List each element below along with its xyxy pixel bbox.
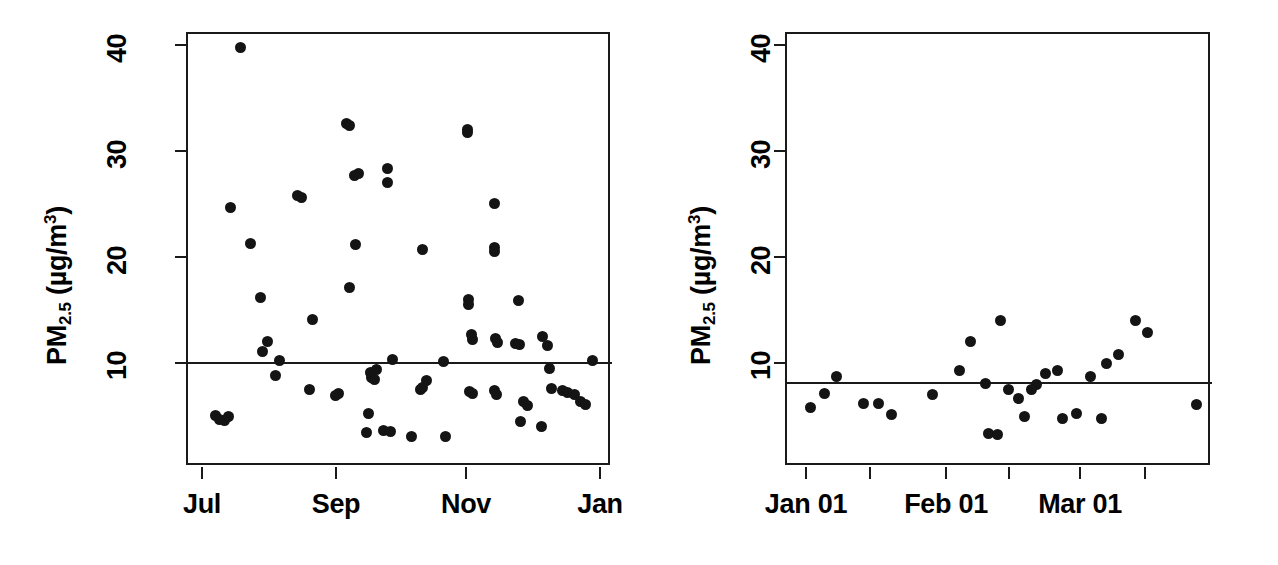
data-point xyxy=(1019,411,1030,422)
data-point xyxy=(344,282,355,293)
data-point xyxy=(382,163,393,174)
data-point xyxy=(491,389,502,400)
data-point xyxy=(858,398,869,409)
left-ytick-mark-40 xyxy=(175,44,186,46)
data-point xyxy=(980,378,991,389)
data-point xyxy=(886,409,897,420)
data-point xyxy=(333,388,344,399)
right-xtick-mark-6 xyxy=(1144,467,1146,479)
right-xtick-label-mar01: Mar 01 xyxy=(1010,489,1150,520)
data-point xyxy=(927,389,938,400)
data-point xyxy=(225,202,236,213)
data-point xyxy=(350,239,361,250)
data-point xyxy=(965,336,976,347)
data-point xyxy=(415,384,426,395)
data-point xyxy=(489,198,500,209)
data-point xyxy=(467,388,478,399)
right-ytick-label-30: 30 xyxy=(746,132,777,178)
right-xtick-mark-1 xyxy=(805,467,807,479)
data-point xyxy=(371,364,382,375)
data-point xyxy=(307,314,318,325)
data-point xyxy=(1142,327,1153,338)
left-xtick-label-jul: Jul xyxy=(152,489,252,520)
data-point xyxy=(587,355,598,366)
data-point xyxy=(1071,408,1082,419)
data-point xyxy=(245,238,256,249)
data-point xyxy=(467,334,478,345)
left-y-axis-title: PM2.5 (µg/m3) xyxy=(42,156,73,416)
data-point xyxy=(514,339,525,350)
data-point xyxy=(270,370,281,381)
data-point xyxy=(1113,349,1124,360)
data-point xyxy=(544,363,555,374)
data-point xyxy=(536,421,547,432)
data-point xyxy=(831,371,842,382)
left-xtick-mark-sep xyxy=(335,467,337,479)
left-ytick-label-30: 30 xyxy=(102,132,133,178)
data-point xyxy=(1085,371,1096,382)
data-point xyxy=(515,416,526,427)
left-ytick-label-40: 40 xyxy=(102,26,133,72)
data-point xyxy=(873,398,884,409)
data-point xyxy=(1040,368,1051,379)
right-ytick-label-40: 40 xyxy=(746,26,777,72)
data-point xyxy=(304,384,315,395)
right-xtick-mark-5 xyxy=(1079,467,1081,479)
data-point xyxy=(296,192,307,203)
data-point xyxy=(361,427,372,438)
data-point xyxy=(417,244,428,255)
left-xtick-label-sep: Sep xyxy=(286,489,386,520)
data-point xyxy=(223,411,234,422)
left-plot-frame xyxy=(186,32,610,465)
right-xtick-mark-2 xyxy=(869,467,871,479)
left-ytick-mark-30 xyxy=(175,150,186,152)
data-point xyxy=(580,399,591,410)
data-point xyxy=(1013,393,1024,404)
right-xtick-label-feb01: Feb 01 xyxy=(876,489,1016,520)
right-ytick-mark-10 xyxy=(774,362,785,364)
data-point xyxy=(369,374,380,385)
left-scatter-panel: PM2.5 (µg/m3) 40 30 20 10 Jul Sep Nov Ja… xyxy=(0,0,639,565)
right-ytick-mark-30 xyxy=(774,150,785,152)
left-xtick-label-jan: Jan xyxy=(550,489,650,520)
right-xtick-mark-4 xyxy=(1008,467,1010,479)
data-point xyxy=(438,356,449,367)
data-point xyxy=(513,295,524,306)
left-ytick-label-10: 10 xyxy=(102,343,133,389)
right-points-layer xyxy=(787,34,1208,463)
data-point xyxy=(1026,384,1037,395)
left-xtick-mark-jul xyxy=(201,467,203,479)
data-point xyxy=(262,336,273,347)
data-point xyxy=(805,402,816,413)
right-ytick-label-10: 10 xyxy=(746,343,777,389)
right-scatter-panel: PM2.5 (µg/m3) 40 30 20 10 Jan 01 Feb 01 … xyxy=(639,0,1278,565)
data-point xyxy=(344,120,355,131)
y-axis-title-text: PM2.5 (µg/m3) xyxy=(42,206,72,365)
data-point xyxy=(463,299,474,310)
data-point xyxy=(992,429,1003,440)
right-ytick-mark-40 xyxy=(774,44,785,46)
data-point xyxy=(274,355,285,366)
data-point xyxy=(385,426,396,437)
data-point xyxy=(406,431,417,442)
data-point xyxy=(382,177,393,188)
data-point xyxy=(1101,358,1112,369)
data-point xyxy=(1191,399,1202,410)
data-point xyxy=(387,354,398,365)
right-y-axis-title: PM2.5 (µg/m3) xyxy=(686,156,717,416)
data-point xyxy=(522,400,533,411)
data-point xyxy=(995,315,1006,326)
right-ytick-label-20: 20 xyxy=(746,238,777,284)
data-point xyxy=(546,383,557,394)
left-xtick-mark-jan xyxy=(599,467,601,479)
left-xtick-label-nov: Nov xyxy=(416,489,516,520)
data-point xyxy=(1003,384,1014,395)
data-point xyxy=(954,365,965,376)
data-point xyxy=(492,337,503,348)
right-xtick-mark-3 xyxy=(945,467,947,479)
y-axis-title-text: PM2.5 (µg/m3) xyxy=(686,206,716,365)
data-point xyxy=(1052,365,1063,376)
data-point xyxy=(235,42,246,53)
data-point xyxy=(255,292,266,303)
data-point xyxy=(1057,413,1068,424)
